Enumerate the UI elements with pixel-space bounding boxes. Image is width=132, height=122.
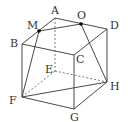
label-c: C: [76, 53, 84, 66]
segment-oh: [81, 24, 107, 82]
edge-bc: [22, 44, 74, 55]
label-o: O: [77, 9, 86, 22]
cube-diagram: A O M D B C E H F G: [0, 0, 132, 122]
segment-mf: [22, 31, 39, 97]
label-d: D: [110, 19, 119, 32]
edge-fg: [22, 97, 74, 109]
label-f: F: [9, 94, 17, 107]
segment-fh: [22, 82, 107, 97]
label-b: B: [10, 37, 18, 50]
label-e: E: [45, 63, 53, 76]
label-h: H: [110, 80, 120, 93]
label-a: A: [50, 4, 60, 17]
label-g: G: [70, 111, 79, 122]
point-o: [79, 22, 83, 26]
edge-eh: [55, 71, 107, 82]
edge-cd: [74, 29, 107, 55]
label-m: M: [27, 19, 38, 32]
edge-gh: [74, 82, 107, 109]
segment-mo: [39, 24, 81, 31]
